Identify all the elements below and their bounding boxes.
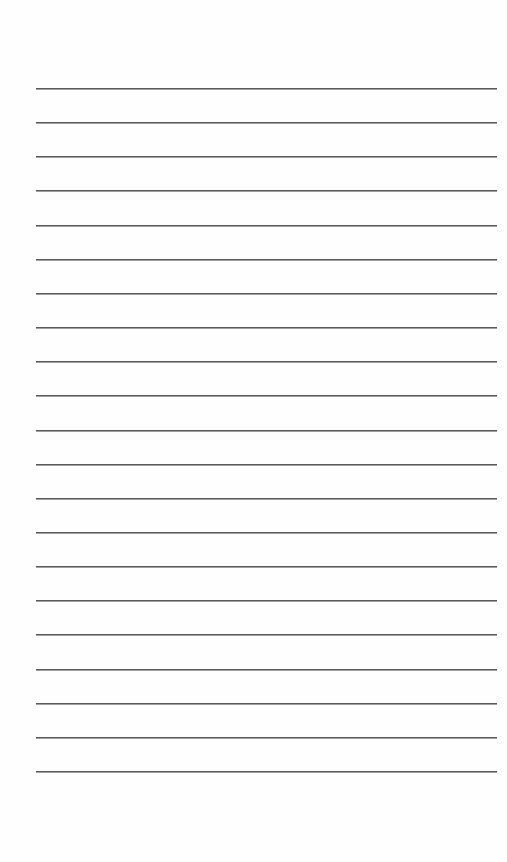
- ruled-line: [36, 395, 497, 397]
- ruled-line: [36, 259, 497, 261]
- ruled-line: [36, 566, 497, 568]
- ruled-line: [36, 464, 497, 466]
- ruled-line: [36, 88, 497, 90]
- ruled-line: [36, 122, 497, 124]
- ruled-line: [36, 361, 497, 363]
- ruled-line: [36, 156, 497, 158]
- ruled-line: [36, 703, 497, 705]
- ruled-line: [36, 532, 497, 534]
- ruled-line: [36, 669, 497, 671]
- ruled-line: [36, 600, 497, 602]
- ruled-line: [36, 737, 497, 739]
- ruled-line: [36, 771, 497, 773]
- ruled-line: [36, 190, 497, 192]
- ruled-line: [36, 225, 497, 227]
- lined-paper-page: [0, 0, 507, 862]
- ruled-line: [36, 498, 497, 500]
- ruled-line: [36, 327, 497, 329]
- ruled-line: [36, 293, 497, 295]
- ruled-line: [36, 430, 497, 432]
- ruled-line: [36, 634, 497, 636]
